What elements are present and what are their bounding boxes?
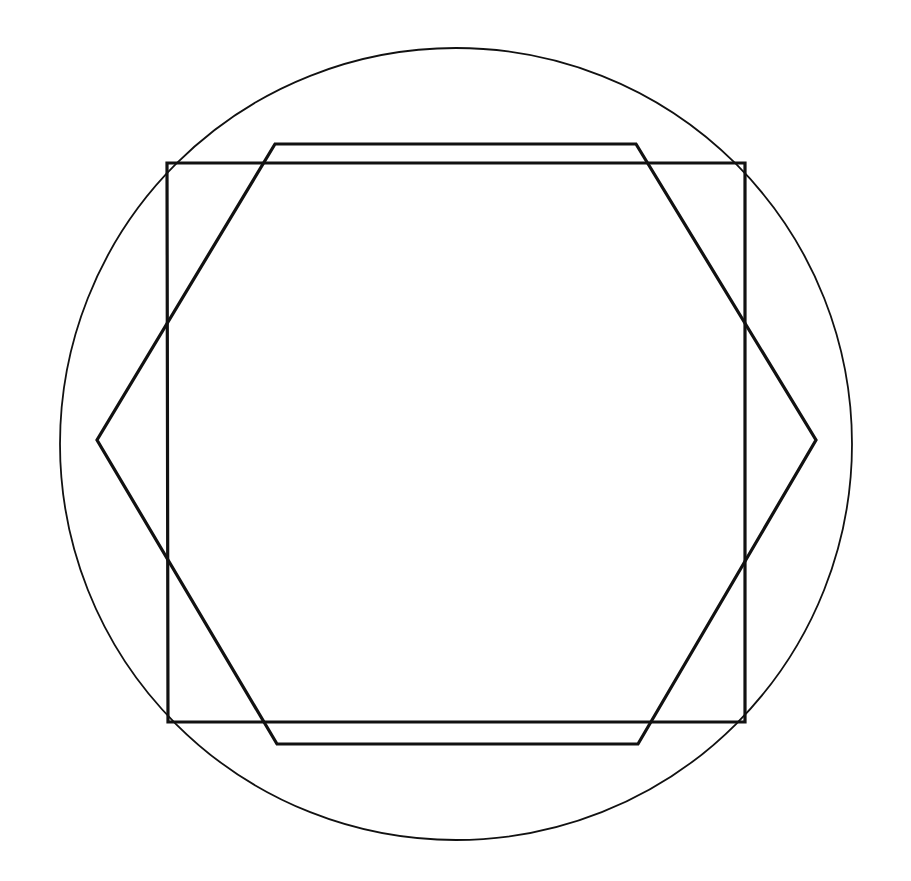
inscribed-square	[167, 163, 745, 722]
diagram-canvas	[0, 0, 911, 881]
geometry-figure	[0, 0, 911, 881]
inscribed-hexagon	[97, 144, 816, 744]
